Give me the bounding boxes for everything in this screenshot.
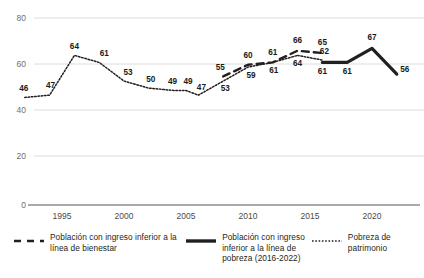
y-tick-20: 20	[17, 151, 27, 161]
data-label-0-1: 47	[46, 81, 56, 90]
y-tick-60: 60	[17, 59, 27, 69]
chart-legend: Población con ingreso inferior a la líne…	[0, 232, 424, 278]
y-tick-40: 40	[17, 105, 27, 115]
data-label-1-1: 60	[243, 51, 253, 60]
series-line-2	[322, 48, 396, 74]
data-label-0-9: 53	[221, 84, 231, 93]
legend-item-patrimonio[interactable]: Pobreza de patrimonio	[312, 232, 424, 253]
x-tick-2000: 2000	[115, 211, 134, 221]
x-tick-2005: 2005	[177, 211, 196, 221]
data-label-0-3: 61	[100, 49, 110, 58]
x-tick-1995: 1995	[53, 211, 72, 221]
data-label-1-2: 61	[268, 48, 278, 57]
data-label-0-5: 50	[146, 75, 156, 84]
y-tick-0: 0	[21, 200, 26, 210]
x-tick-2015: 2015	[301, 211, 320, 221]
data-label-0-11: 61	[269, 66, 279, 75]
data-label-0-8: 47	[197, 83, 207, 92]
data-label-2-3: 56	[400, 65, 410, 74]
dashed-line-marker	[14, 235, 44, 247]
x-tick-2010: 2010	[239, 211, 258, 221]
data-label-0-0: 46	[19, 84, 29, 93]
data-point-labels: 4647646153504949475359616455606166656161…	[19, 33, 410, 93]
data-label-2-0: 61	[318, 67, 328, 76]
data-label-2-2: 67	[367, 33, 377, 42]
data-label-0-2: 64	[70, 42, 80, 51]
data-label-0-10: 59	[246, 71, 256, 80]
data-label-1-3: 66	[293, 36, 303, 45]
data-label-1-0: 55	[216, 63, 226, 72]
series-line-0	[25, 55, 298, 97]
data-series-layer	[25, 48, 397, 97]
y-tick-80: 80	[17, 13, 27, 23]
legend-label-patrimonio: Pobreza de patrimonio	[348, 232, 424, 253]
x-tick-2020: 2020	[363, 211, 382, 221]
legend-item-bienestar[interactable]: Población con ingreso inferior a la líne…	[0, 232, 186, 253]
data-label-0-6: 49	[168, 77, 178, 86]
data-label-0-7: 49	[183, 77, 193, 86]
data-label-0-12: 64	[293, 59, 303, 68]
line-chart-plot: 80 60 40 20 0 1995 2000 2005 2010 2015 2…	[0, 0, 424, 232]
data-label-1-4: 65	[318, 38, 328, 47]
bold-line-marker	[186, 235, 216, 247]
dotted-line-marker	[312, 235, 342, 247]
legend-label-bienestar: Población con ingreso inferior a la líne…	[50, 232, 186, 253]
legend-label-pobreza: Población con ingreso inferior a la líne…	[222, 232, 312, 264]
chart-container: 80 60 40 20 0 1995 2000 2005 2010 2015 2…	[0, 0, 424, 278]
x-axis-tick-labels: 1995 2000 2005 2010 2015 2020	[53, 211, 382, 221]
data-label-0-4: 53	[123, 68, 133, 77]
legend-item-pobreza[interactable]: Población con ingreso inferior a la líne…	[186, 232, 312, 264]
data-label-3-1: 62	[320, 47, 330, 56]
data-label-2-1: 61	[343, 67, 353, 76]
y-axis-tick-labels: 80 60 40 20 0	[17, 13, 27, 210]
